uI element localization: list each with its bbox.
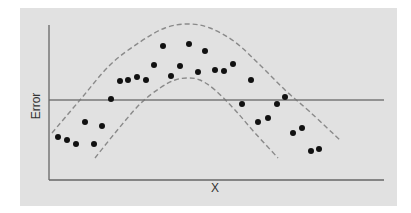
x-axis-label: X (211, 181, 219, 195)
data-point (91, 141, 97, 147)
data-point (134, 74, 140, 80)
data-point (255, 119, 261, 125)
data-point (168, 73, 174, 79)
data-point (73, 141, 79, 147)
data-point (248, 77, 254, 83)
data-point (117, 78, 123, 84)
data-point (186, 41, 192, 47)
data-point (202, 48, 208, 54)
data-point (308, 148, 314, 154)
data-point (230, 61, 236, 67)
data-point (177, 63, 183, 69)
data-point (212, 67, 218, 73)
data-point (239, 101, 245, 107)
data-point (160, 43, 166, 49)
confidence-bands (52, 24, 341, 158)
data-point (125, 77, 131, 83)
scatter-chart: Error X (0, 0, 411, 213)
lower-band-curve (95, 78, 278, 158)
data-point (55, 134, 61, 140)
data-point (143, 77, 149, 83)
data-point (265, 115, 271, 121)
data-point (299, 125, 305, 131)
data-point (316, 146, 322, 152)
data-point (195, 69, 201, 75)
data-point (99, 123, 105, 129)
y-axis-label: Error (29, 93, 43, 120)
data-point (82, 119, 88, 125)
data-point (290, 130, 296, 136)
data-point (64, 137, 70, 143)
data-point (282, 94, 288, 100)
data-point (151, 62, 157, 68)
data-point (108, 96, 114, 102)
data-point (274, 101, 280, 107)
data-points (55, 41, 322, 154)
data-point (221, 68, 227, 74)
upper-band-curve (52, 24, 341, 141)
